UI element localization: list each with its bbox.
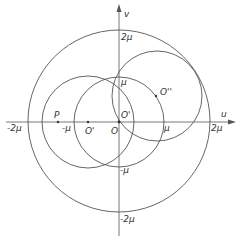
point-o-double-prime-label: O'' — [160, 87, 172, 97]
y-tick-mu: μ — [120, 77, 127, 87]
u-axis-label: u — [221, 109, 227, 119]
v-axis-label: v — [124, 9, 130, 19]
y-tick-negmu: -μ — [120, 165, 129, 175]
y-tick-2mu: 2μ — [121, 32, 133, 42]
x-tick-neg2mu: -2μ — [7, 123, 22, 133]
circle-diagram: v u -2μ -μ μ 2μ 2μ μ -μ -2μ O P O' O' O'… — [0, 0, 239, 241]
x-tick-2mu: 2μ — [211, 123, 223, 133]
point-o-double-prime — [155, 95, 157, 97]
point-o-prime-label: O' — [85, 126, 95, 136]
origin-label: O — [111, 126, 118, 136]
point-p-label: P — [54, 110, 60, 120]
y-tick-neg2mu: -2μ — [120, 214, 135, 224]
x-tick-negmu: -μ — [62, 123, 71, 133]
point-p — [57, 121, 59, 123]
x-tick-mu: μ — [163, 123, 170, 133]
v-axis-arrow-icon — [117, 4, 122, 12]
point-origin — [118, 121, 121, 124]
point-o-prime-origin-label: O' — [121, 110, 131, 120]
point-o-prime — [87, 121, 89, 123]
u-axis-arrow-icon — [228, 120, 236, 125]
